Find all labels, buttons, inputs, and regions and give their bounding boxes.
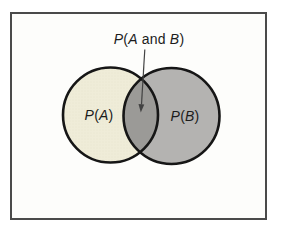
intersection-label-a: A bbox=[127, 31, 138, 47]
circle-b-label-close-paren: ) bbox=[195, 108, 200, 124]
intersection-label-close-paren: ) bbox=[179, 31, 184, 47]
circle-a-label-p: P bbox=[85, 107, 95, 123]
intersection-label-and: and bbox=[138, 31, 170, 47]
intersection-label-p: P bbox=[114, 31, 124, 47]
circle-b-label-var: B bbox=[185, 108, 195, 124]
circle-a-label-var: A bbox=[98, 107, 109, 123]
venn-diagram-canvas: P(A and B) P(A) P(B) bbox=[0, 0, 281, 229]
circle-a-label-close-paren: ) bbox=[109, 107, 114, 123]
venn-figure: P(A and B) P(A) P(B) bbox=[0, 0, 281, 229]
circle-b-label-p: P bbox=[171, 108, 181, 124]
circle-b-label: P(B) bbox=[171, 108, 200, 124]
circle-a-label: P(A) bbox=[85, 107, 114, 123]
intersection-label: P(A and B) bbox=[114, 31, 185, 47]
intersection-label-b: B bbox=[170, 31, 180, 47]
